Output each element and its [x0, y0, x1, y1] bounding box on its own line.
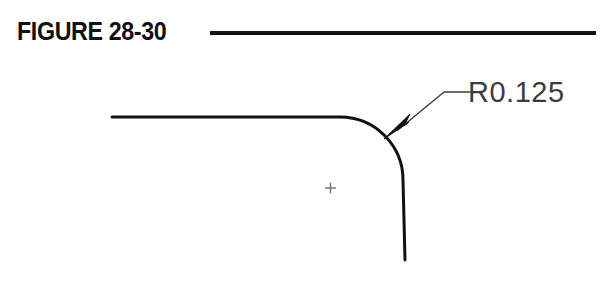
radius-leader-arrowhead-icon — [384, 114, 410, 139]
figure-header: FIGURE 28-30 — [0, 0, 616, 56]
figure-title-rule — [210, 31, 596, 35]
radius-leader-line — [398, 92, 470, 130]
radius-dimension-label: R0.125 — [468, 77, 565, 107]
part-outline-path — [112, 117, 405, 260]
arc-center-mark-icon — [325, 183, 336, 194]
figure-title: FIGURE 28-30 — [17, 18, 166, 44]
figure-sheet: FIGURE 28-30 R0.125 — [0, 0, 616, 281]
